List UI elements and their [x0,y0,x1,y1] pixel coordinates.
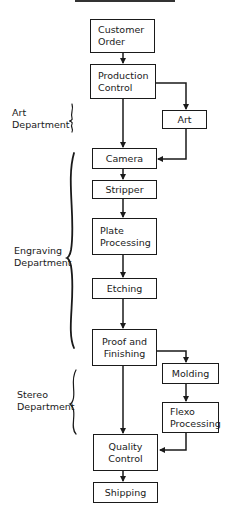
node-label: Stripper [105,184,143,196]
node-molding: Molding [162,363,219,384]
node-label: Etching [107,283,143,295]
node-quality-control: Quality Control [93,434,158,471]
node-label: Production Control [98,70,149,94]
node-etching: Etching [92,278,157,299]
node-shipping: Shipping [93,482,158,503]
node-camera: Camera [92,148,157,169]
title-underline [75,0,175,2]
node-art: Art [162,110,207,129]
engraving-department-label: Engraving Department [14,245,72,269]
node-label: Art [177,114,191,126]
node-label: Camera [106,153,143,165]
node-production-control: Production Control [90,64,156,99]
node-label: Shipping [105,487,146,499]
node-flexo-processing: Flexo Processing [162,402,219,433]
node-label: Proof and Finishing [102,336,147,360]
stereo-department-label: Stereo Department [17,389,75,413]
node-proof-finishing: Proof and Finishing [92,329,157,366]
node-label: Flexo Processing [170,406,221,430]
node-customer-order: Customer Order [90,19,155,53]
node-stripper: Stripper [92,180,157,199]
node-label: Quality Control [108,441,142,465]
node-label: Molding [172,368,209,380]
node-plate-processing: Plate Processing [92,218,157,255]
node-label: Plate Processing [100,225,151,249]
art-department-label: Art Department [12,107,70,131]
node-label: Customer Order [98,24,144,48]
